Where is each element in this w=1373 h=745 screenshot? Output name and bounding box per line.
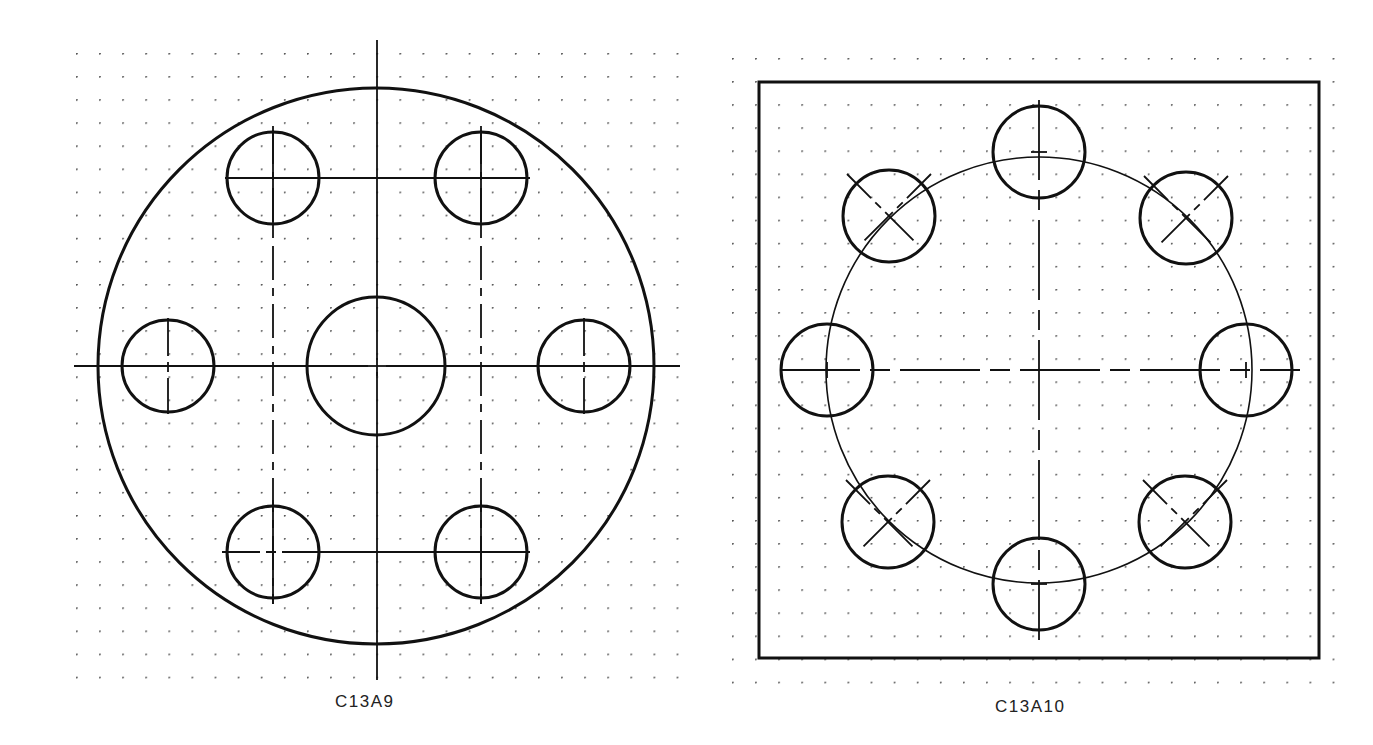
drawing-c13a10: C13A10 <box>690 0 1373 745</box>
drawing-c13a9: C13A9 <box>0 0 690 745</box>
figure-label-c13a9: C13A9 <box>335 692 394 712</box>
drawing-c13a9-canvas <box>0 0 690 745</box>
figure-label-c13a10: C13A10 <box>995 697 1065 717</box>
drawing-c13a10-canvas <box>690 0 1373 745</box>
